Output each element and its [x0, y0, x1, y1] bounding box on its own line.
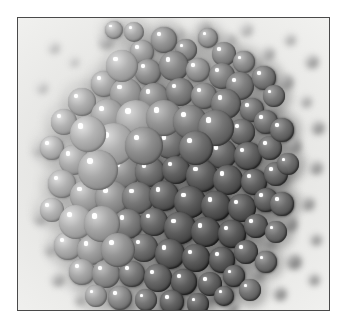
- large-sphere: [70, 116, 106, 152]
- micrograph-frame: [17, 17, 330, 311]
- specular-highlight: [109, 240, 114, 245]
- large-sphere: [179, 131, 213, 165]
- specular-highlight: [187, 138, 192, 143]
- large-sphere: [78, 150, 118, 190]
- figure-page: [0, 0, 345, 329]
- specular-highlight: [67, 212, 72, 217]
- large-sphere-layer: [18, 18, 329, 310]
- large-sphere: [125, 127, 163, 165]
- caption-area: [0, 313, 345, 329]
- large-sphere: [101, 233, 135, 267]
- specular-highlight: [181, 112, 186, 117]
- micrograph-image: [18, 18, 329, 310]
- large-sphere: [106, 50, 138, 82]
